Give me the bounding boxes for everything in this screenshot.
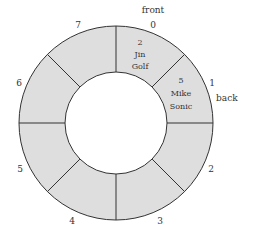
index-label-4: 4 (69, 216, 75, 226)
index-label-3: 3 (157, 216, 163, 226)
index-label-2: 2 (208, 164, 214, 174)
circular-queue-diagram: 2 Jin Golf 5 Mike Sonic 0 1 2 3 4 5 6 7 … (0, 0, 253, 236)
slot-1-line-3: Sonic (170, 102, 193, 111)
slot-1-line-1: 5 (178, 76, 183, 85)
slot-1-line-2: Mike (171, 89, 192, 98)
slot-0-line-2: Jin (134, 50, 146, 59)
inner-hole (65, 72, 167, 174)
index-label-6: 6 (16, 78, 22, 88)
index-label-1: 1 (209, 78, 215, 88)
index-label-0: 0 (150, 20, 156, 30)
index-label-7: 7 (75, 20, 81, 30)
slot-0-line-1: 2 (137, 38, 142, 47)
back-pointer-label: back (216, 93, 238, 103)
index-label-5: 5 (17, 164, 23, 174)
front-pointer-label: front (142, 5, 165, 15)
slot-0-line-3: Golf (132, 62, 150, 71)
